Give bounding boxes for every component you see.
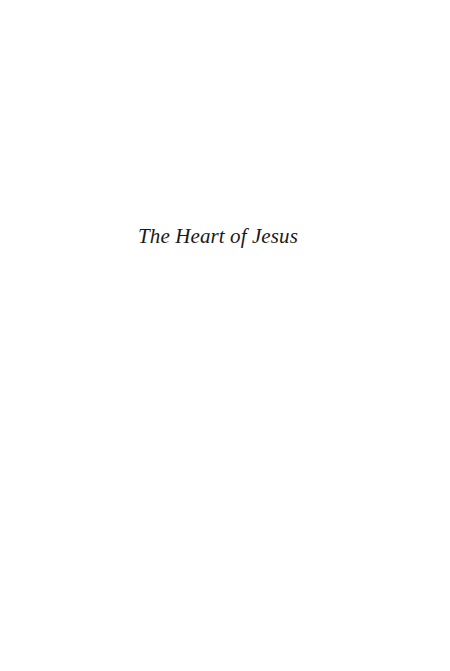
book-page: The Heart of Jesus: [0, 0, 450, 671]
half-title: The Heart of Jesus: [0, 222, 436, 250]
